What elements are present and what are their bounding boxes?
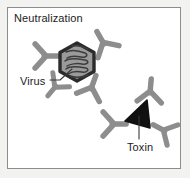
neutralization-illustration <box>0 0 190 178</box>
antibody-toxin-top-right <box>137 78 163 103</box>
virus-label: Virus <box>20 75 45 87</box>
panel-title: Neutralization <box>14 12 83 24</box>
antibody-virus-left <box>35 44 58 68</box>
toxin-label: Toxin <box>127 141 153 153</box>
antibody-toxin-left <box>103 112 126 136</box>
neutralization-figure: Neutralization Virus Toxin <box>0 0 190 178</box>
